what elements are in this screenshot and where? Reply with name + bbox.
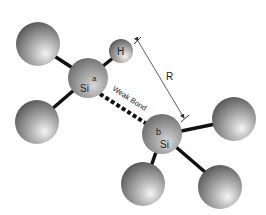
distance-label: R [166, 71, 173, 82]
neighbor-atom-bottomright [198, 165, 242, 209]
hydrogen-label: H [117, 46, 124, 57]
silicon-b-tag: b [156, 127, 161, 137]
neighbor-atom-topleft [16, 22, 60, 66]
silicon-a-tag: a [92, 74, 97, 83]
neighbor-atom-right [212, 97, 256, 141]
silicon-b-label: Si [160, 139, 169, 150]
neighbor-atom-bottom [121, 162, 165, 206]
weak-bond-label: Weak Bond [111, 84, 148, 113]
silicon-a-label: Si [80, 83, 89, 94]
silicon-hydrogen-bond-diagram: H a Si b Si Weak Bond R [0, 0, 266, 215]
neighbor-atom-lowerleft [15, 100, 59, 144]
